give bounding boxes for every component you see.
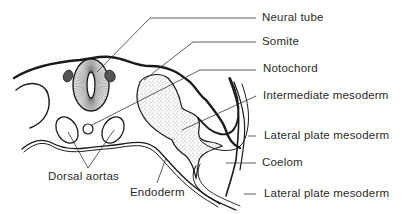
label-lateral-plate-mesoderm-upper: Lateral plate mesoderm [264,130,389,142]
label-dorsal-aortas: Dorsal aortas [48,171,119,183]
leader-somite [144,42,193,80]
neural-tube [73,59,109,111]
ectoderm-outline [14,57,240,148]
somatopleure-loop-inner [200,84,249,151]
dorsal-aorta-left [51,113,82,147]
notochord [83,124,93,134]
leader-endoderm [157,158,166,183]
leader-neural-tube [97,18,150,72]
splanchnopleure-outer [193,166,236,210]
label-notochord: Notochord [263,63,318,75]
dorsal-aorta-right [97,113,128,147]
label-coelom: Coelom [262,157,303,169]
label-lateral-plate-mesoderm-lower: Lateral plate mesoderm [264,188,389,200]
left-lateral-curve [16,84,49,128]
label-neural-tube: Neural tube [262,12,324,24]
somite-mesoderm [137,75,222,178]
label-somite: Somite [262,36,299,48]
label-intermediate-mesoderm: Intermediate mesoderm [263,90,389,102]
label-endoderm: Endoderm [130,187,185,199]
neural-crest-left [62,69,75,83]
